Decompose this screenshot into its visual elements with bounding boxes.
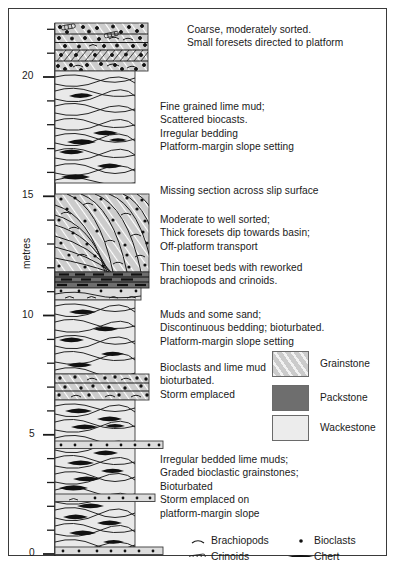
- annotation-line: Scattered biocasts.: [160, 114, 248, 125]
- annotation-fine-lime-mud: Fine grained lime mud;Scattered biocasts…: [160, 100, 294, 154]
- unit-wackestone-lower: [55, 400, 135, 555]
- legend-label-packstone: Packstone: [320, 392, 368, 403]
- unit-toeset-beds: [55, 288, 141, 300]
- annotation-line: Storm emplaced: [160, 389, 235, 400]
- axis-tick-label-10: 10: [22, 309, 33, 320]
- legend-label-grainstone: Grainstone: [320, 358, 370, 369]
- symbol-label-crinoids: Crinoids: [211, 551, 249, 562]
- annotation-line: Irregular bedding: [160, 128, 238, 139]
- annotation-line: Moderate to well sorted;: [160, 214, 270, 225]
- legend-swatch-wackestone: [272, 415, 309, 441]
- brachiopod-arc-icon: [192, 541, 204, 543]
- symbol-label-brachiopods: Brachiopods: [211, 535, 269, 546]
- annotation-missing-section: Missing section across slip surface: [160, 184, 319, 197]
- annotation-line: platform-margin slope: [160, 508, 260, 519]
- axis-tick-label-5: 5: [29, 428, 35, 439]
- annotation-irregular-bedded: Irregular bedded lime muds;Graded biocla…: [160, 453, 299, 520]
- annotation-line: Bioturbated: [160, 481, 213, 492]
- annotation-bioclasts-lime-mud: Bioclasts and lime mudbioturbated.Storm …: [160, 361, 266, 401]
- annotation-moderate-well-sorted: Moderate to well sorted;Thick foresets d…: [160, 213, 310, 253]
- unit-packstone: [55, 272, 149, 288]
- figure-frame: 20 15 10 5 0 metres Coarse, moderately s…: [8, 8, 387, 556]
- axis-tick-label-20: 20: [22, 70, 33, 81]
- annotation-coarse: Coarse, moderately sorted.Small foresets…: [187, 23, 343, 50]
- symbol-label-bioclasts: Bioclasts: [314, 535, 356, 546]
- legend-swatch-grainstone: [272, 351, 309, 377]
- figure-stage: 20 15 10 5 0 metres Coarse, moderately s…: [9, 9, 388, 557]
- annotation-line: Irregular bedded lime muds;: [160, 454, 288, 465]
- annotation-line: brachiopods and crinoids.: [160, 275, 277, 286]
- annotation-line: Fine grained lime mud;: [160, 101, 265, 112]
- bioclast-dot-icon: [299, 539, 303, 543]
- chert-lens-icon: [285, 555, 316, 557]
- annotation-line: Small foresets directed to platform: [187, 37, 343, 48]
- legend-swatch-packstone: [272, 385, 309, 411]
- annotation-line: Platform-margin slope setting: [160, 141, 294, 152]
- annotation-line: Bioclasts and lime mud: [160, 362, 266, 373]
- unit-wackestone-upper: [55, 71, 135, 185]
- annotation-line: Thick foresets dip towards basin;: [160, 227, 310, 238]
- unit-grainstone-bioclastic: [55, 374, 149, 400]
- annotation-toeset: Thin toeset beds with reworkedbrachiopod…: [160, 261, 303, 288]
- annotation-line: Missing section across slip surface: [160, 185, 319, 196]
- symbol-label-chert: Chert: [314, 551, 339, 562]
- unit-grainstone-top: [55, 23, 148, 72]
- annotation-line: Storm emplaced on: [160, 494, 249, 505]
- annotation-line: Coarse, moderately sorted.: [187, 24, 311, 35]
- annotation-line: Graded bioclastic grainstones;: [160, 467, 299, 478]
- annotation-line: Thin toeset beds with reworked: [160, 262, 303, 273]
- annotation-line: Muds and some sand;: [160, 309, 261, 320]
- unit-grainstone-foresets: [55, 194, 169, 272]
- axis-tick-label-0: 0: [29, 547, 35, 558]
- annotation-line: bioturbated.: [160, 375, 214, 386]
- axis-ticks: [43, 29, 55, 554]
- annotation-muds-sand: Muds and some sand;Discontinuous bedding…: [160, 308, 324, 348]
- axis-title-metres: metres: [21, 238, 32, 269]
- crinoid-ladder-icon: [189, 554, 206, 557]
- annotation-line: Off-platform transport: [160, 241, 258, 252]
- legend-label-wackestone: Wackestone: [320, 422, 376, 433]
- unit-wackestone-middle: [55, 300, 135, 378]
- axis-tick-label-15: 15: [22, 189, 33, 200]
- annotation-line: Discontinuous bedding; bioturbated.: [160, 322, 324, 333]
- annotation-line: Platform-margin slope setting: [160, 336, 294, 347]
